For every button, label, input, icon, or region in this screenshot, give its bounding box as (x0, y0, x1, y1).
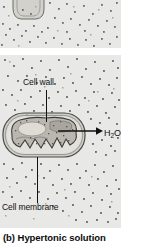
cytoplasm-granules (15, 120, 73, 144)
partial-cell-inner (17, 0, 40, 16)
figure-root: Cell wall Cell membrane H2O (b) Hyperton… (0, 0, 141, 248)
water-arrow-icon (58, 127, 103, 135)
cell-membrane-label: Cell membrane (2, 203, 58, 212)
water-label-sub: 2 (110, 132, 114, 139)
solute-dot-group-lower (2, 58, 120, 223)
cell-membrane-leader-line (37, 157, 38, 203)
upper-panel-cropped (0, 0, 121, 48)
cytoplasm-strand (16, 137, 48, 139)
cell-wall-label: Cell wall (23, 78, 54, 87)
solute-dot-group-upper-light (8, 6, 114, 47)
solute-dot-group-upper (1, 2, 118, 47)
cell-wall-inner (6, 116, 83, 155)
partial-cell-outline (13, 0, 44, 19)
plant-cell (3, 113, 85, 157)
cytoplasm-region (50, 121, 72, 132)
water-label-o: O (114, 128, 121, 138)
vacuole (18, 122, 46, 136)
plasmolysis-gap (7, 117, 81, 153)
cell-wall-outer (3, 113, 85, 157)
solute-dots-upper (0, 0, 121, 48)
cell-membrane-protoplast (12, 117, 77, 148)
cell-wall-leader-line (46, 90, 47, 122)
water-label: H2O (104, 129, 121, 138)
figure-caption: (b) Hypertonic solution (3, 232, 106, 243)
solute-dot-group-lower-light (5, 61, 115, 220)
